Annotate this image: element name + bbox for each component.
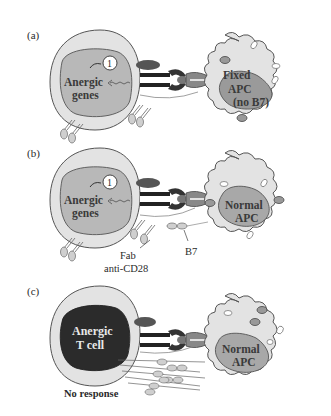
no-response-label: No response <box>64 388 119 399</box>
fab-label-1: Fab <box>120 250 136 261</box>
panel-a: (a) 1 Anergic genes Fixed APC (no B7) <box>27 29 280 143</box>
tcell-label-c2: T cell <box>76 338 105 352</box>
apc-label-a1: Fixed <box>223 69 251 81</box>
tcell-label-a1: Anergic <box>64 76 103 89</box>
tcell-label-a2: genes <box>72 89 99 102</box>
panel-b: (b) 1 Anergic genes Fab anti-CD28 B7 N <box>27 147 284 274</box>
panel-c: (c) Anergic T cell No response <box>27 285 285 399</box>
apc-label-c2: APC <box>232 356 256 368</box>
anergy-diagram: (a) 1 Anergic genes Fixed APC (no B7) (b… <box>0 0 331 416</box>
tcell-label-c1: Anergic <box>72 324 113 338</box>
apc-label-b1: Normal <box>225 199 263 211</box>
tcr-mhc-complex <box>140 69 208 90</box>
b7-label: B7 <box>185 246 197 257</box>
apc-label-a3: (no B7) <box>233 96 269 109</box>
panel-a-letter: (a) <box>27 29 40 42</box>
step-number-b: 1 <box>107 177 112 188</box>
panel-b-letter: (b) <box>27 147 40 160</box>
cd28-molecule <box>136 60 160 70</box>
tcell-label-b1: Anergic <box>64 194 103 207</box>
apc-label-b2: APC <box>235 212 259 224</box>
tcell-label-b2: genes <box>72 207 99 220</box>
fab-label-2: anti-CD28 <box>104 263 148 274</box>
apc-label-c1: Normal <box>222 343 260 355</box>
apc-label-a2: APC <box>228 83 252 95</box>
panel-c-letter: (c) <box>27 285 40 298</box>
step-number-a: 1 <box>107 58 112 69</box>
